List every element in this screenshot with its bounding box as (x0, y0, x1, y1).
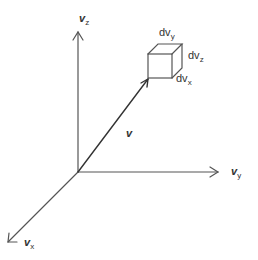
dvx-label: dvx (176, 73, 192, 84)
vy-axis-label: vy (231, 166, 241, 177)
v-vector-label: v (126, 128, 132, 139)
vz-axis-label: vz (79, 13, 89, 24)
vx-axis (8, 172, 78, 242)
dvy-label: dvy (159, 27, 175, 38)
v-vector (78, 79, 148, 172)
vx-axis-label: vx (24, 237, 34, 248)
dvz-label: dvz (188, 50, 204, 61)
